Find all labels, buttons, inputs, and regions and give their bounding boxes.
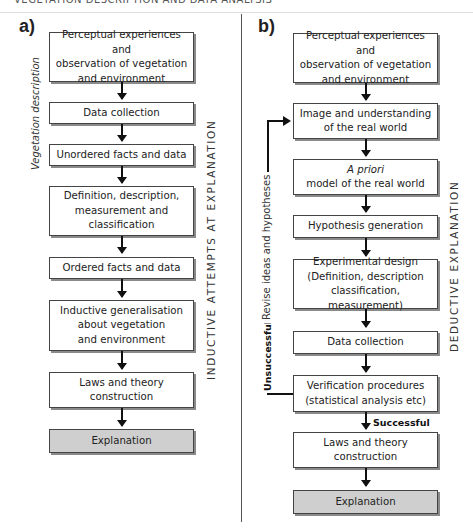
a-box-unordered-facts: Unordered facts and data (49, 144, 194, 166)
arrow-down-icon (121, 82, 123, 99)
arrow-down-icon (121, 236, 123, 253)
panel-b-label: b) (258, 16, 275, 37)
b-box-explanation: Explanation (293, 490, 438, 514)
a-box-inductive-generalisation: Inductive generalisation about vegetatio… (49, 300, 194, 351)
b-box-experimental-design: Experimental design (Definition, descrip… (293, 259, 438, 309)
arrow-down-icon (365, 354, 367, 372)
a-priori-text: A priori (347, 163, 384, 178)
inductive-explanation-label: INDUCTIVE ATTEMPTS AT EXPLANATION (205, 120, 217, 380)
arrow-down-icon (365, 139, 367, 156)
arrow-down-icon (365, 309, 367, 327)
b-box-verification: Verification procedures (statistical ana… (293, 375, 438, 412)
panel-divider (241, 14, 242, 522)
panel-a-label: a) (19, 16, 35, 37)
a-box-definition: Definition, description, measurement and… (49, 186, 194, 236)
a-box-explanation: Explanation (49, 429, 194, 453)
arrow-down-icon (365, 468, 367, 486)
arrow-down-icon (121, 408, 123, 426)
loop-line-bottom (267, 393, 293, 395)
model-text: model of the real world (306, 177, 425, 192)
b-box-image-understanding: Image and understanding of the real worl… (293, 103, 438, 139)
arrow-down-icon (365, 195, 367, 212)
b-box-hypothesis: Hypothesis generation (293, 215, 438, 238)
b-box-data-collection: Data collection (293, 331, 438, 354)
b-box-a-priori-model: A priori model of the real world (293, 159, 438, 195)
vegetation-description-label: Vegetation description (30, 57, 41, 170)
unsuccessful-label: Unsuccessful (262, 319, 273, 393)
arrow-down-icon (121, 166, 123, 183)
successful-label: Successful (373, 417, 430, 428)
page-header: VEGETATION DESCRIPTION AND DATA ANALYSIS (14, 0, 272, 5)
header-rule (0, 12, 473, 13)
deductive-explanation-label: DEDUCTIVE EXPLANATION (448, 181, 460, 352)
b-box-laws-theory: Laws and theory construction (293, 432, 438, 468)
b-box-perceptual: Perceptual experiences and observation o… (293, 33, 438, 83)
arrow-down-icon (365, 83, 367, 100)
arrow-right-icon (283, 116, 291, 126)
a-box-perceptual: Perceptual experiences and observation o… (49, 32, 194, 82)
a-box-data-collection: Data collection (49, 102, 194, 124)
a-box-ordered-facts: Ordered facts and data (49, 257, 194, 279)
a-box-laws-theory: Laws and theory construction (49, 372, 194, 408)
arrow-down-icon (121, 351, 123, 369)
arrow-down-icon (365, 238, 367, 256)
revise-ideas-label: Revise ideas and hypotheses (261, 172, 272, 323)
arrow-down-icon (365, 412, 367, 429)
arrow-down-icon (121, 124, 123, 141)
arrow-down-icon (121, 279, 123, 297)
